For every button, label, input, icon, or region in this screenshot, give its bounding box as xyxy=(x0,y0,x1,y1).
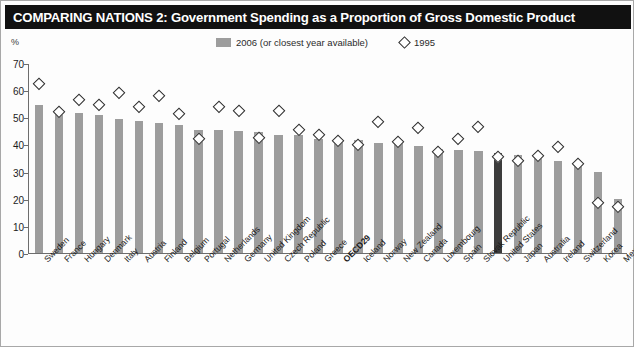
y-axis-tick xyxy=(24,173,28,174)
y-axis-tick-label: 40 xyxy=(4,140,24,151)
y-axis-tick-label: 10 xyxy=(4,221,24,232)
chart-figure: COMPARING NATIONS 2: Government Spending… xyxy=(0,0,634,347)
legend-diamond-icon xyxy=(398,36,411,49)
y-axis-tick xyxy=(24,254,28,255)
marker-poland xyxy=(293,123,305,135)
bar-czech-republic xyxy=(274,135,283,253)
bar-slovak-republic xyxy=(474,151,483,253)
marker-slovak-republic xyxy=(472,121,484,133)
marker-belgium xyxy=(173,107,185,119)
y-axis-tick xyxy=(24,64,28,65)
marker-hungary xyxy=(73,93,85,105)
legend-item-2006: 2006 (or closest year available) xyxy=(216,37,368,48)
marker-spain xyxy=(452,133,464,145)
chart-title-bar: COMPARING NATIONS 2: Government Spending… xyxy=(5,5,631,29)
bar-norway xyxy=(374,143,383,253)
marker-austria xyxy=(133,100,145,112)
bar-netherlands xyxy=(214,130,223,254)
legend-label-2006: 2006 (or closest year available) xyxy=(236,37,368,48)
bar-italy xyxy=(115,119,124,253)
marker-czech-republic xyxy=(273,104,285,116)
marker-canada xyxy=(412,122,424,134)
y-axis-tick-label: 0 xyxy=(4,249,24,260)
marker-norway xyxy=(372,115,384,127)
marker-finland xyxy=(153,89,165,101)
y-axis-tick-label: 50 xyxy=(4,113,24,124)
y-axis-unit-label: % xyxy=(11,37,19,47)
marker-netherlands xyxy=(213,100,225,112)
bar-austria xyxy=(135,121,144,253)
y-axis-tick xyxy=(24,200,28,201)
bar-sweden xyxy=(35,105,44,253)
legend-item-1995: 1995 xyxy=(400,37,435,48)
y-axis-tick-label: 20 xyxy=(4,194,24,205)
bar-australia xyxy=(534,158,543,253)
marker-italy xyxy=(113,87,125,99)
y-axis-line xyxy=(28,64,29,254)
bar-portugal xyxy=(194,130,203,254)
page-title: COMPARING NATIONS 2: Government Spending… xyxy=(5,10,575,25)
y-axis-tick-label: 30 xyxy=(4,167,24,178)
bar-hungary xyxy=(75,113,84,253)
y-axis-tick xyxy=(24,227,28,228)
y-axis-tick xyxy=(24,145,28,146)
chart-legend: 2006 (or closest year available) 1995 xyxy=(216,37,435,48)
marker-ireland xyxy=(552,141,564,153)
marker-denmark xyxy=(93,99,105,111)
y-axis-tick xyxy=(24,118,28,119)
y-axis-tick-label: 60 xyxy=(4,86,24,97)
bar-france xyxy=(55,113,64,253)
marker-germany xyxy=(233,104,245,116)
bar-belgium xyxy=(175,125,184,253)
y-axis-tick-label: 70 xyxy=(4,59,24,70)
bar-denmark xyxy=(95,115,104,253)
legend-bar-swatch-icon xyxy=(216,38,231,47)
marker-sweden xyxy=(33,77,45,89)
legend-label-1995: 1995 xyxy=(414,37,435,48)
y-axis-tick xyxy=(24,91,28,92)
bar-finland xyxy=(155,123,164,253)
bar-germany xyxy=(234,131,243,253)
